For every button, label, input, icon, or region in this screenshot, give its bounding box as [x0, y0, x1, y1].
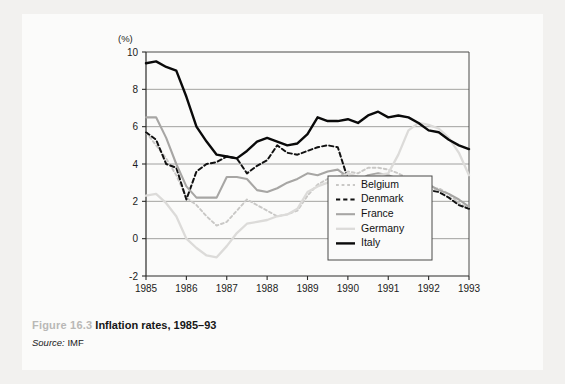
chart-svg: 1086420-21985198619871988198919901991199…	[22, 14, 543, 314]
legend-label-france: France	[361, 207, 394, 219]
x-tick-label-1985: 1985	[135, 283, 158, 294]
legend-label-italy: Italy	[361, 236, 381, 248]
source-label: Source:	[32, 337, 65, 348]
figure-number: Figure 16.3	[32, 319, 92, 331]
source-value: IMF	[67, 337, 83, 348]
x-tick-label-1992: 1992	[418, 283, 441, 294]
x-tick-label-1986: 1986	[175, 283, 198, 294]
y-axis-unit-label: (%)	[118, 33, 133, 44]
y-tick-label--2: -2	[129, 271, 138, 282]
y-tick-label-4: 4	[132, 159, 138, 170]
x-tick-label-1989: 1989	[296, 283, 319, 294]
y-tick-label-8: 8	[132, 84, 138, 95]
x-tick-label-1988: 1988	[256, 283, 279, 294]
inflation-line-chart: 1086420-21985198619871988198919901991199…	[22, 14, 543, 314]
page-background: 1086420-21985198619871988198919901991199…	[0, 0, 565, 384]
y-tick-label-10: 10	[127, 47, 139, 58]
figure-title: Inflation rates, 1985–93	[95, 319, 216, 331]
y-tick-label-0: 0	[132, 233, 138, 244]
legend-label-germany: Germany	[361, 222, 405, 234]
figure-card: 1086420-21985198619871988198919901991199…	[22, 14, 543, 370]
x-tick-label-1987: 1987	[216, 283, 239, 294]
y-tick-label-6: 6	[132, 121, 138, 132]
x-tick-label-1991: 1991	[377, 283, 400, 294]
legend-label-denmark: Denmark	[361, 192, 404, 204]
caption-title-line: Figure 16.3 Inflation rates, 1985–93	[32, 318, 532, 333]
x-tick-label-1990: 1990	[337, 283, 360, 294]
figure-caption: Figure 16.3 Inflation rates, 1985–93 Sou…	[32, 318, 532, 350]
y-tick-label-2: 2	[132, 196, 138, 207]
x-tick-label-1993: 1993	[458, 283, 481, 294]
legend-label-belgium: Belgium	[361, 178, 399, 190]
figure-source-line: Source: IMF	[32, 336, 532, 350]
